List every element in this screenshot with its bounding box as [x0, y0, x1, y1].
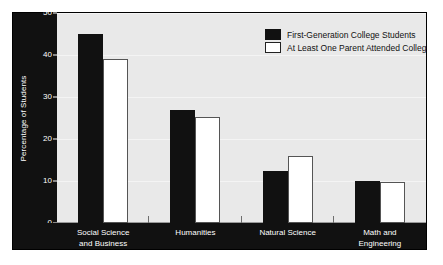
x-label-line2: Engineering: [334, 238, 426, 249]
x-label-social-science-and-business: Social Science and Business: [57, 223, 149, 249]
x-label-line2: and Business: [57, 238, 149, 249]
legend-item-parent-attended: At Least One Parent Attended College: [265, 42, 426, 53]
x-label-math-and-engineering: Math and Engineering: [334, 223, 426, 249]
y-tick-label-10: 10: [43, 177, 52, 185]
x-axis-band: Social Science and Business Humanities N…: [13, 223, 426, 249]
bar-social-science-first-generation: [78, 34, 103, 223]
y-axis-title: Percentage of Students: [13, 13, 35, 223]
bar-humanities-first-generation: [170, 110, 195, 223]
legend-item-first-generation: First-Generation College Students: [265, 29, 426, 40]
bar-group-humanities: [149, 13, 241, 223]
y-tick-label-50: 50: [43, 9, 52, 17]
x-label-natural-science: Natural Science: [242, 223, 334, 249]
y-tick-label-40: 40: [43, 51, 52, 59]
y-axis-title-text: Percentage of Students: [20, 75, 29, 161]
x-label-line1: Math and: [363, 228, 396, 237]
y-axis-ticks: 50 40 30 20 10 0: [35, 13, 57, 223]
legend-label-parent-attended: At Least One Parent Attended College: [287, 43, 426, 53]
plot-area: First-Generation College Students At Lea…: [57, 13, 426, 223]
bar-humanities-parent-attended: [195, 117, 220, 223]
bar-natural-science-parent-attended: [288, 156, 313, 223]
x-label-line1: Social Science: [77, 228, 129, 237]
bar-group-social-science-and-business: [57, 13, 149, 223]
y-tick-label-30: 30: [43, 93, 52, 101]
bar-math-engineering-first-generation: [355, 181, 380, 223]
bar-math-engineering-parent-attended: [380, 182, 405, 223]
x-label-line1: Natural Science: [259, 228, 315, 237]
legend-label-first-generation: First-Generation College Students: [287, 30, 416, 40]
chart-legend: First-Generation College Students At Lea…: [262, 27, 426, 57]
x-label-line1: Humanities: [175, 228, 215, 237]
bar-social-science-parent-attended: [103, 59, 128, 223]
light-swatch-icon: [265, 42, 281, 53]
bar-chart: Percentage of Students 50 40 30 20 10 0: [12, 12, 427, 250]
x-label-humanities: Humanities: [149, 223, 241, 249]
bar-natural-science-first-generation: [263, 171, 288, 224]
x-axis-labels: Social Science and Business Humanities N…: [57, 223, 426, 249]
y-tick-label-20: 20: [43, 135, 52, 143]
dark-swatch-icon: [265, 29, 281, 40]
